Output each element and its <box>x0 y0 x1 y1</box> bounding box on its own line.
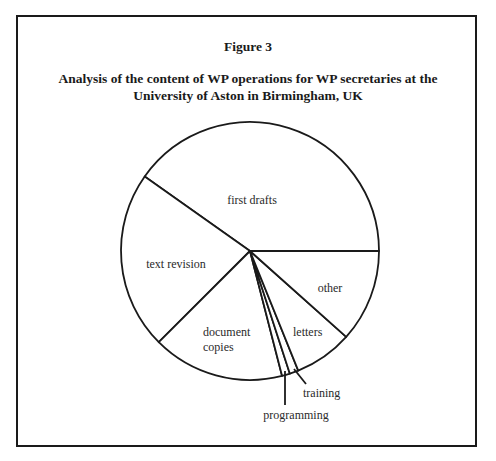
slice-label-first-drafts: first drafts <box>227 193 277 207</box>
slice-label-letters: letters <box>293 325 323 339</box>
slice-label-other: other <box>318 281 343 295</box>
leader-line-training <box>294 369 306 384</box>
pie-chart: first draftstext revisiondocumentcopiesp… <box>0 0 496 461</box>
slice-label-text-revision: text revision <box>146 257 206 271</box>
slice-label-training: training <box>303 386 340 400</box>
slice-label-programming: programming <box>263 408 328 422</box>
